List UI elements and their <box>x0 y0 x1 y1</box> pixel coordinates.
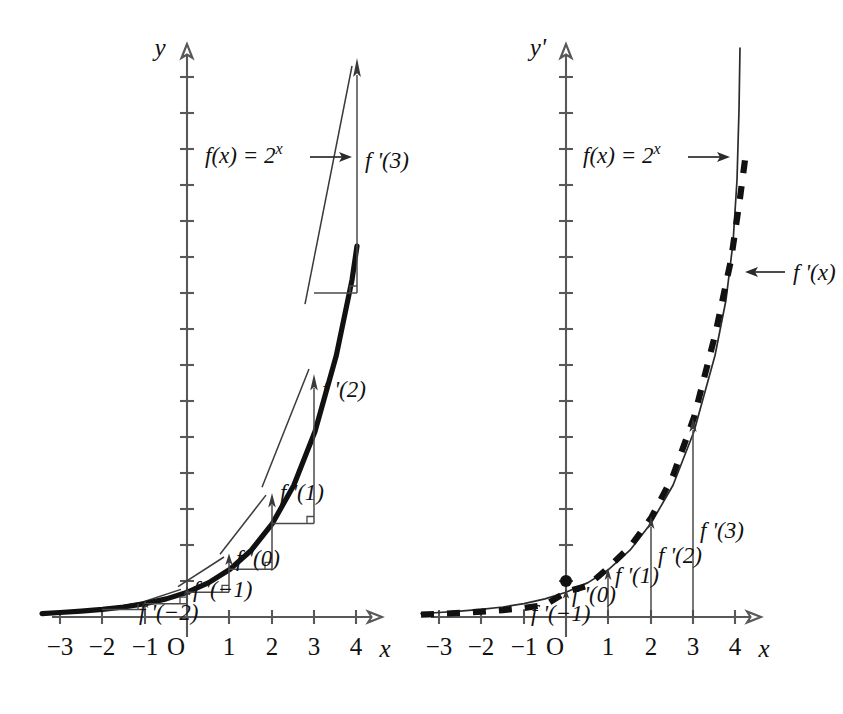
left-function-label-group: f(x) = 2x <box>205 140 352 168</box>
right-label-f-prime-1: f '(1) <box>615 563 659 588</box>
right-y-axis-label: y' <box>527 34 547 61</box>
left-x-tick-label--2: −2 <box>89 633 116 660</box>
figure-canvas: y −3 −2 −1 O 1 2 <box>0 0 843 714</box>
left-curve-fx <box>42 246 357 614</box>
left-label-f-prime-2: f '(2) <box>322 377 366 402</box>
left-label-f-prime--1: f '(−1) <box>193 577 252 602</box>
left-function-label-body: (x) = 2 <box>211 143 275 168</box>
right-x-tick-label-1: 1 <box>602 633 615 660</box>
right-function-label: f(x) = 2x <box>583 140 661 168</box>
left-x-axis: −3 −2 −1 O 1 2 3 4 x <box>47 610 391 662</box>
right-x-tick-label--2: −2 <box>468 633 495 660</box>
right-x-axis: −3 −2 −1 O 1 2 3 4 x <box>426 610 770 662</box>
left-x-tick-label--3: −3 <box>47 633 74 660</box>
right-label-f-prime-3: f '(3) <box>700 518 744 543</box>
left-x-tick-label--1: −1 <box>132 633 159 660</box>
left-origin-label: O <box>167 633 185 660</box>
right-label-f-prime-0: f '(0) <box>572 582 616 607</box>
left-derivative-constructions <box>102 58 361 609</box>
right-angle-mark <box>307 517 314 524</box>
left-x-tick-label-2: 2 <box>266 633 279 660</box>
left-panel: y −3 −2 −1 O 1 2 <box>42 34 409 662</box>
right-panel: y' −3 −2 −1 O 1 2 <box>421 34 836 662</box>
right-y-axis: y' <box>527 34 573 637</box>
left-y-axis-label: y <box>151 34 166 61</box>
left-y-axis: y <box>151 34 194 637</box>
right-derivative-curve-label-group: f '(x) <box>745 260 836 285</box>
left-label-f-prime-3: f '(3) <box>365 148 409 173</box>
tangent-at-3 <box>305 66 352 304</box>
left-label-f-prime-1: f '(1) <box>280 480 324 505</box>
math-figure: y −3 −2 −1 O 1 2 <box>0 0 843 714</box>
right-label-f-prime-x: f '(x) <box>793 260 836 285</box>
right-function-label-body: (x) = 2 <box>589 143 653 168</box>
right-curve-fx-visible <box>421 48 740 614</box>
right-marked-point <box>560 575 572 587</box>
right-x-tick-label--1: −1 <box>511 633 538 660</box>
right-x-tick-label-2: 2 <box>645 633 658 660</box>
right-x-tick-label-4: 4 <box>729 633 742 660</box>
left-x-axis-label: x <box>378 635 390 662</box>
measure-f-prime-3 <box>689 418 696 617</box>
left-x-tick-label-1: 1 <box>223 633 236 660</box>
left-label-f-prime--2: f '(−2) <box>139 600 198 625</box>
left-x-tick-label-4: 4 <box>350 633 363 660</box>
right-x-tick-label--3: −3 <box>426 633 453 660</box>
left-label-f-prime-0: f '(0) <box>236 546 280 571</box>
right-function-label-group: f(x) = 2x <box>583 140 730 168</box>
right-function-label-exponent: x <box>652 140 660 157</box>
right-x-axis-label: x <box>757 635 769 662</box>
left-x-tick-label-3: 3 <box>308 633 321 660</box>
left-function-label-exponent: x <box>274 140 282 157</box>
rise-arrowhead-f-prime-3 <box>353 58 361 77</box>
right-origin-label: O <box>546 633 564 660</box>
right-label-f-prime-2: f '(2) <box>658 543 702 568</box>
right-x-tick-label-3: 3 <box>687 633 700 660</box>
left-function-label: f(x) = 2x <box>205 140 283 168</box>
